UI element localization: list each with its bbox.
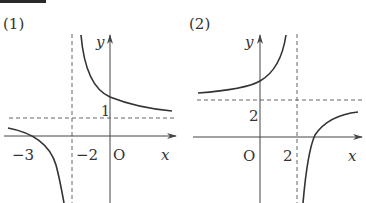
graph-1-origin-label: O — [113, 146, 125, 164]
graph-2-y-label: y — [244, 33, 254, 51]
graph-1-upper-branch — [81, 35, 172, 111]
graph-1-lower-branch — [8, 128, 64, 203]
graph-2-tick-x-2: 2 — [283, 147, 293, 165]
graph-2: (2) y 2 O 2 x — [189, 15, 364, 203]
graph-1-tick-y-1: 1 — [101, 103, 110, 119]
graph-2-upper-branch — [198, 35, 286, 93]
graph-1-tick-x-minus3: −3 — [12, 146, 34, 164]
graph-1-label: (1) — [3, 15, 24, 33]
graph-1-y-label: y — [95, 33, 105, 51]
graph-1-x-label: x — [161, 146, 170, 164]
graph-1-tick-x-minus2: −2 — [76, 146, 98, 164]
graph-2-origin-label: O — [243, 147, 255, 165]
graph-2-label: (2) — [189, 15, 210, 33]
graph-2-x-label: x — [348, 147, 357, 165]
hyperbola-diagrams: (1) y 1 −3 −2 O x (2) y 2 O 2 x — [0, 0, 366, 203]
graph-2-tick-y-2: 2 — [249, 107, 259, 125]
graph-1: (1) y 1 −3 −2 O x — [3, 15, 176, 203]
